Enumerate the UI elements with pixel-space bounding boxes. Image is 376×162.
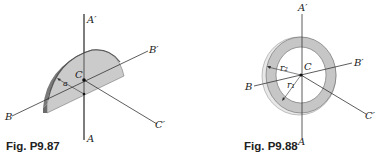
ring-diagram: [188, 0, 376, 162]
label-b: B: [5, 112, 12, 122]
label-r2: r₂: [280, 64, 288, 73]
figure-p9-88: A′ A B′ B C′ C r₂ r₁ Fig. P9.88: [188, 0, 376, 162]
figure-caption: Fig. P9.88: [244, 141, 298, 153]
label-c: C: [75, 70, 83, 80]
label-a-prime: A′: [87, 15, 97, 25]
label-c-prime: C′: [155, 120, 165, 130]
label-b-prime: B′: [354, 58, 364, 68]
figure-caption: Fig. P9.87: [6, 141, 60, 153]
label-a: A: [298, 137, 305, 147]
label-r1: r₁: [287, 81, 295, 90]
figure-p9-87: A′ A B′ B C′ C a Fig. P9.87: [0, 0, 188, 162]
label-a-prime: A′: [298, 3, 308, 13]
label-c: C: [304, 62, 312, 72]
label-a: A: [87, 134, 94, 144]
label-b-prime: B′: [149, 45, 159, 55]
label-dimension-a: a: [63, 80, 68, 88]
label-c-prime: C′: [365, 111, 375, 121]
label-b: B: [245, 82, 252, 92]
